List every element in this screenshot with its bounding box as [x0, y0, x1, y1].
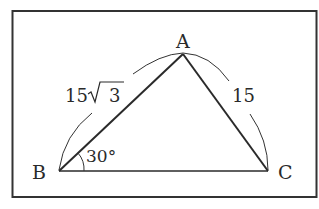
vertex-label-a: A [175, 30, 190, 52]
arc-ac-lower [250, 114, 268, 170]
vertex-label-c: C [278, 161, 293, 183]
side-ab [59, 54, 183, 171]
angle-b-arc [78, 153, 84, 171]
side-ab-label-number: 15 [65, 85, 88, 106]
diagram-frame [13, 11, 317, 197]
vertex-label-b: B [32, 161, 46, 183]
triangle-diagram: A B C 15 3 15 30° [0, 0, 319, 209]
side-ac-label: 15 [232, 85, 255, 106]
arc-ab-upper [133, 53, 183, 74]
side-ab-label-root: 3 [109, 85, 120, 106]
angle-b-label: 30° [86, 146, 116, 166]
side-ac [183, 54, 268, 171]
arc-ac-upper [183, 53, 229, 81]
